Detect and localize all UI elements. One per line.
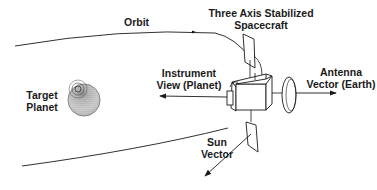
orbit-path-upper — [15, 32, 252, 60]
antenna-label-line2: Vector (Earth) — [303, 78, 377, 90]
spacecraft-label-line1: Three Axis Stabilized — [206, 7, 316, 19]
antenna-label-line1: Antenna — [303, 66, 377, 78]
orbit-arrow-icon — [192, 31, 196, 34]
target-planet-icon — [68, 80, 100, 116]
target-label-line1: Target — [24, 89, 60, 101]
orbit-label: Orbit — [124, 16, 149, 28]
upper-solar-panel-icon — [243, 34, 262, 80]
sun-vector-label: Sun Vector — [197, 136, 237, 160]
instrument-label-line1: Instrument — [148, 67, 230, 79]
sun-label-line2: Vector — [197, 148, 237, 160]
target-planet-label: Target Planet — [24, 89, 60, 113]
spacecraft-body-icon — [227, 73, 272, 111]
instrument-label-line2: View (Planet) — [148, 79, 230, 91]
instrument-view-arrow — [160, 96, 227, 97]
instrument-view-label: Instrument View (Planet) — [148, 67, 230, 91]
antenna-dish-icon — [272, 77, 296, 113]
sun-label-line1: Sun — [197, 136, 237, 148]
antenna-vector-label: Antenna Vector (Earth) — [303, 66, 377, 90]
target-label-line2: Planet — [24, 101, 60, 113]
lower-solar-panel-icon — [246, 110, 258, 152]
spacecraft-label: Three Axis Stabilized Spacecraft — [206, 7, 316, 31]
spacecraft-label-line2: Spacecraft — [206, 19, 316, 31]
